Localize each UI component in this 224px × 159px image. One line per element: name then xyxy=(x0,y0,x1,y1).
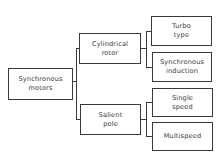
node-cylindrical-rotor: Cylindrical rotor xyxy=(79,33,141,64)
node-label: Single speed xyxy=(172,94,193,112)
node-label: Cylindrical rotor xyxy=(92,40,128,58)
node-multispeed: Multispeed xyxy=(152,122,213,151)
classification-diagram: Synchronous motors Cylindrical rotor Sal… xyxy=(0,0,224,159)
node-salient-pole: Salient pole xyxy=(80,104,141,135)
node-turbo-type: Turbo type xyxy=(151,16,212,46)
node-synchronous-induction: Synchronous induction xyxy=(152,52,212,82)
connector-salient-trunk xyxy=(146,102,147,137)
node-label: Synchronous induction xyxy=(160,58,204,76)
node-label: Multispeed xyxy=(164,132,202,141)
connector-cylindrical-trunk xyxy=(146,31,147,68)
connector-root-trunk xyxy=(76,48,77,120)
node-label: Turbo type xyxy=(172,22,191,40)
node-single-speed: Single speed xyxy=(152,88,213,117)
node-synchronous-motors: Synchronous motors xyxy=(8,68,73,100)
node-label: Salient pole xyxy=(99,111,123,129)
node-label: Synchronous motors xyxy=(18,75,62,93)
